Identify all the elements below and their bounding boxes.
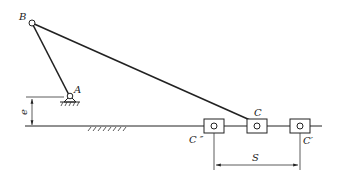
label-C-double-prime: C ″ [189, 134, 204, 145]
label-B: B [18, 11, 26, 22]
crank-link [32, 23, 69, 95]
slider-C-prime [290, 119, 310, 133]
guide-ground-hatch [88, 127, 126, 131]
label-C-prime: C′ [303, 135, 314, 146]
slider-C-double-prime [204, 119, 224, 133]
diagram-canvas: B A C C ″ C′ e S [0, 0, 346, 183]
label-A: A [73, 84, 81, 95]
label-S: S [252, 152, 259, 163]
label-e: e [18, 109, 29, 115]
label-C: C [254, 107, 262, 118]
slider-crank-diagram: B A C C ″ C′ e S [0, 0, 346, 183]
coupler-link [32, 23, 250, 120]
joint-B [29, 20, 35, 26]
slider-C [247, 119, 267, 133]
ground-pivot-A [60, 93, 80, 106]
